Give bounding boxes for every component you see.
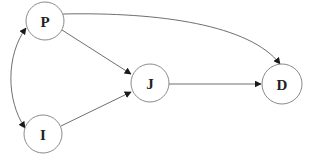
- edge-p-to-d: [63, 14, 280, 64]
- node-j: J: [131, 64, 169, 102]
- node-d: D: [262, 64, 302, 104]
- node-i: I: [24, 115, 62, 153]
- node-j-label: J: [146, 76, 154, 92]
- node-p-label: P: [40, 14, 49, 30]
- node-i-label: I: [40, 127, 46, 143]
- node-p: P: [26, 2, 64, 40]
- edge-p-to-j: [62, 30, 131, 74]
- causal-diagram: P I J D: [0, 0, 309, 161]
- edge-p-i-bidirectional: [11, 28, 26, 128]
- edge-i-to-j: [61, 92, 131, 126]
- node-d-label: D: [277, 77, 288, 93]
